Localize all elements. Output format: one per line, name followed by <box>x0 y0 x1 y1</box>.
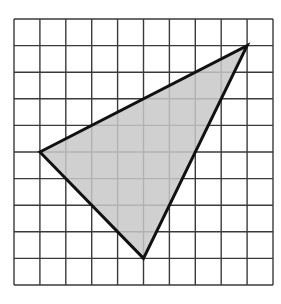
grid-triangle-diagram <box>0 0 281 304</box>
